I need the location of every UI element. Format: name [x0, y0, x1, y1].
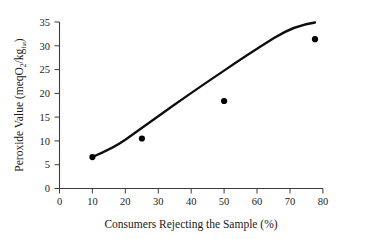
y-tick-label-20: 20 — [40, 88, 51, 99]
x-tick-label-0: 0 — [57, 196, 62, 207]
x-tick-label-50: 50 — [219, 196, 230, 207]
y-tick-label-30: 30 — [40, 41, 51, 52]
y-tick-label-25: 25 — [40, 64, 51, 75]
x-tick-label-30: 30 — [153, 196, 164, 207]
y-tick-label-5: 5 — [45, 159, 50, 170]
x-axis-title: Consumers Rejecting the Sample (%) — [104, 218, 277, 231]
data-point-1 — [89, 154, 95, 160]
chart-figure: 0 5 10 15 20 25 30 35 0 10 20 30 40 50 6… — [0, 0, 367, 239]
y-tick-label-35: 35 — [40, 17, 51, 28]
figure-background — [0, 0, 367, 239]
x-tick-label-60: 60 — [252, 196, 263, 207]
y-tick-label-15: 15 — [40, 112, 51, 123]
y-axis-title-main: Peroxide Value (meqO — [13, 67, 26, 172]
y-tick-label-10: 10 — [40, 136, 51, 147]
y-axis-title-mid: /kg — [13, 48, 26, 63]
data-point-3 — [221, 98, 227, 104]
y-tick-label-0: 0 — [45, 183, 50, 194]
data-point-4 — [312, 36, 318, 42]
peroxide-value-scatter-chart: 0 5 10 15 20 25 30 35 0 10 20 30 40 50 6… — [0, 0, 367, 239]
y-axis-title-end: ) — [13, 38, 26, 42]
x-tick-label-10: 10 — [87, 196, 98, 207]
data-point-2 — [139, 135, 145, 141]
x-tick-label-40: 40 — [186, 196, 197, 207]
x-tick-label-70: 70 — [285, 196, 296, 207]
x-tick-label-20: 20 — [120, 196, 131, 207]
x-tick-label-80: 80 — [318, 196, 329, 207]
